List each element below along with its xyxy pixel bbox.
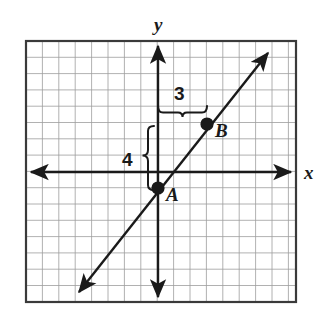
x-axis-label: x (304, 163, 314, 182)
point-a-marker (151, 181, 164, 194)
point-b-label: B (215, 121, 228, 140)
point-b-marker (200, 117, 213, 130)
run-brace-label: 3 (174, 84, 185, 103)
rise-brace-label: 4 (122, 150, 133, 169)
coordinate-plane-figure (0, 0, 332, 315)
point-a-label: A (166, 185, 179, 204)
y-axis-label: y (154, 15, 162, 34)
